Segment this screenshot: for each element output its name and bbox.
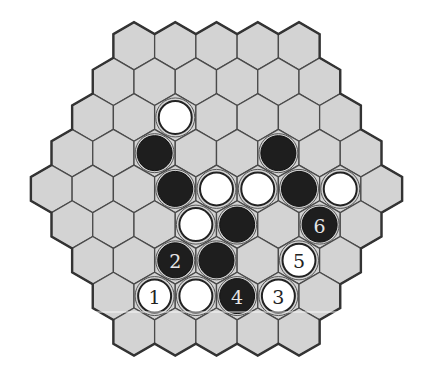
black-stone[interactable] — [135, 134, 174, 173]
black-stone-disc — [137, 136, 172, 171]
black-stone[interactable] — [259, 134, 298, 173]
move-number-label: 5 — [293, 250, 305, 272]
move-number-label: 6 — [314, 215, 326, 237]
move-number-label: 1 — [149, 286, 161, 308]
white-stone[interactable]: 3 — [259, 277, 298, 316]
white-stone[interactable]: 5 — [280, 241, 319, 280]
white-stone-disc — [241, 172, 274, 205]
white-stone-disc — [200, 172, 233, 205]
white-stone[interactable] — [176, 277, 215, 316]
black-stone[interactable]: 2 — [156, 241, 195, 280]
move-number-label: 2 — [169, 250, 181, 272]
black-stone-disc — [199, 243, 234, 278]
black-stone[interactable] — [197, 241, 236, 280]
black-stone-disc — [158, 171, 193, 206]
white-stone-disc — [324, 172, 357, 205]
hex-game-board: 625143 — [0, 0, 429, 377]
white-stone[interactable] — [156, 98, 195, 137]
white-stone-disc — [179, 208, 212, 241]
white-stone[interactable] — [321, 169, 360, 208]
white-stone[interactable] — [238, 169, 277, 208]
black-stone[interactable] — [156, 169, 195, 208]
white-stone[interactable]: 1 — [135, 277, 174, 316]
black-stone[interactable] — [280, 169, 319, 208]
black-stone[interactable]: 4 — [218, 277, 257, 316]
black-stone-disc — [261, 136, 296, 171]
black-stone[interactable] — [218, 205, 257, 244]
black-stone-disc — [220, 207, 255, 242]
black-stone[interactable]: 6 — [300, 205, 339, 244]
move-number-label: 4 — [231, 286, 243, 308]
white-stone-disc — [159, 101, 192, 134]
white-stone-disc — [179, 280, 212, 313]
move-number-label: 3 — [272, 286, 284, 308]
black-stone-disc — [282, 171, 317, 206]
white-stone[interactable] — [197, 169, 236, 208]
white-stone[interactable] — [176, 205, 215, 244]
